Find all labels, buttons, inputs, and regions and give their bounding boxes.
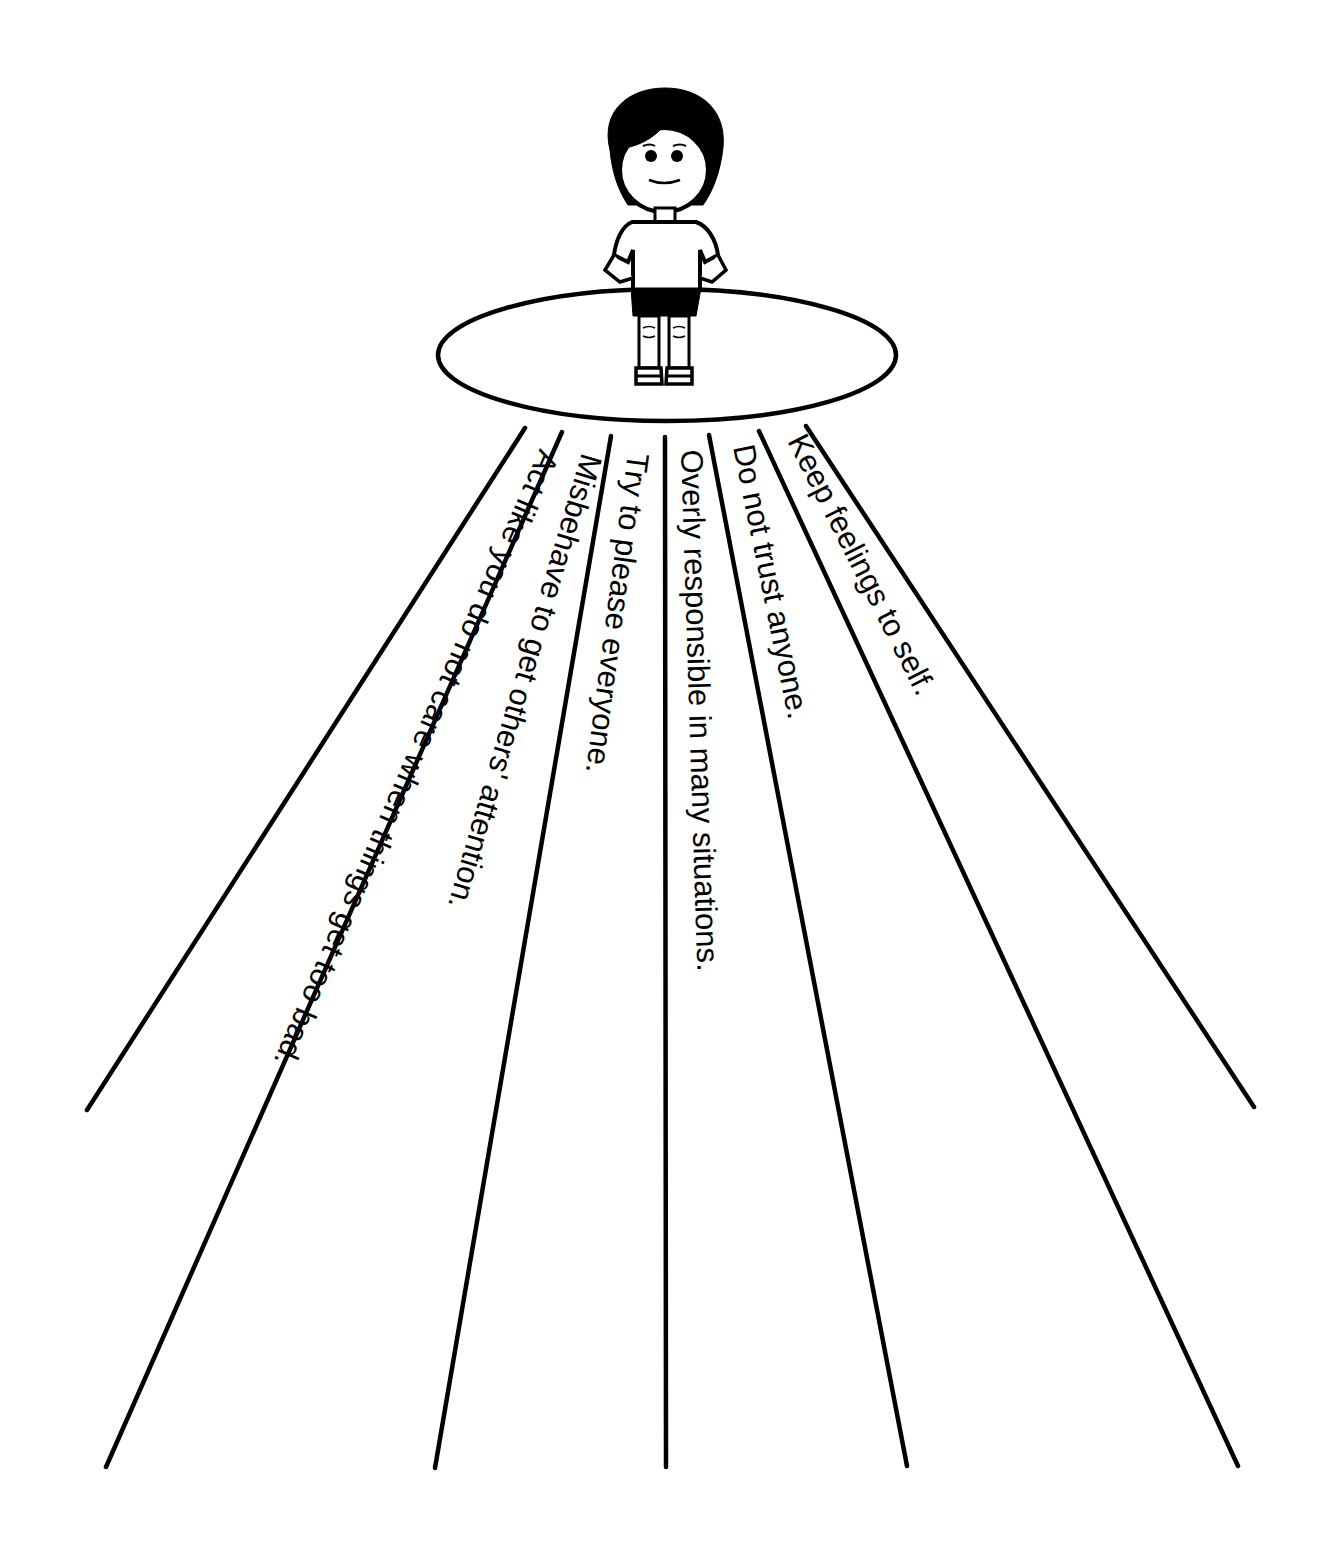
eye-right [671,150,683,162]
path-lines [87,426,1254,1468]
ray-line-3 [435,436,611,1468]
diagram-canvas: Act like you do not care when things get… [0,0,1326,1557]
path-labels: Act like you do not care when things get… [267,428,943,1072]
ray-line-6 [759,431,1238,1466]
path-label-overly-responsible: Overly responsible in many situations. [674,449,725,972]
ray-line-7 [806,426,1254,1107]
ray-line-4 [665,437,666,1467]
eye-left [645,150,657,162]
